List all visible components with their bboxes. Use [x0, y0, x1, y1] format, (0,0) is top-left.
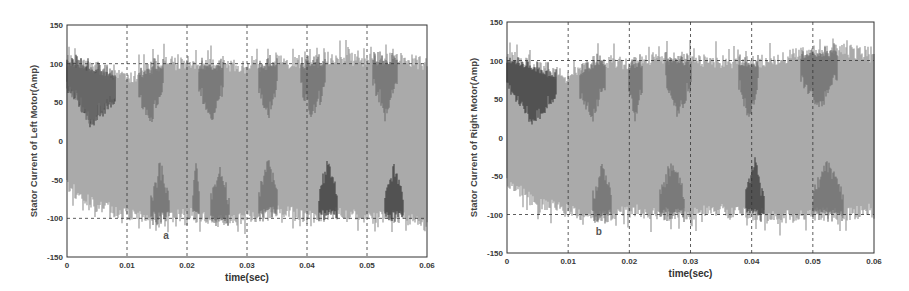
- x-tick-label: 0.04: [299, 261, 315, 270]
- y-tick-label: -50: [491, 172, 503, 181]
- chart-panel-right: 150100500-50-100-15000.010.020.030.040.0…: [450, 0, 909, 291]
- y-tick-label: 50: [54, 98, 63, 107]
- y-tick-label: 100: [490, 57, 504, 66]
- x-tick-label: 0.05: [359, 261, 375, 270]
- x-tick-label: 0: [505, 257, 510, 266]
- y-tick-label: -50: [51, 176, 63, 185]
- y-tick-label: -100: [47, 214, 64, 223]
- y-tick-labels: 150100500-50-100-150: [487, 18, 504, 258]
- panel-annotation: a: [163, 230, 169, 241]
- x-tick-label: 0.06: [419, 261, 435, 270]
- y-tick-label: 50: [494, 95, 503, 104]
- x-tick-label: 0.05: [805, 257, 821, 266]
- y-tick-label: 0: [59, 137, 64, 146]
- x-tick-label: 0.01: [560, 257, 576, 266]
- x-tick-label: 0: [65, 261, 70, 270]
- y-tick-label: -150: [47, 253, 64, 262]
- y-tick-label: -100: [487, 211, 504, 220]
- y-tick-label: 150: [50, 21, 64, 30]
- x-tick-label: 0.03: [239, 261, 255, 270]
- x-tick-label: 0.01: [119, 261, 135, 270]
- panel-annotation: b: [596, 226, 602, 237]
- x-tick-label: 0.02: [179, 261, 195, 270]
- y-tick-label: -150: [487, 249, 504, 258]
- x-tick-label: 0.02: [622, 257, 638, 266]
- y-axis-label: Stator Current of Right Motor(Amp): [468, 58, 479, 217]
- y-tick-label: 0: [499, 134, 504, 143]
- y-tick-label: 150: [490, 18, 504, 27]
- y-axis-label: Stator Current of Left Motor(Amp): [28, 65, 39, 218]
- chart-panel-left: 150100500-50-100-15000.010.020.030.040.0…: [0, 0, 450, 291]
- x-tick-label: 0.06: [866, 257, 882, 266]
- x-axis-label: time(sec): [225, 272, 269, 283]
- y-tick-labels: 150100500-50-100-150: [47, 21, 64, 262]
- chart-right-svg: 150100500-50-100-15000.010.020.030.040.0…: [450, 0, 909, 291]
- chart-left-svg: 150100500-50-100-15000.010.020.030.040.0…: [0, 0, 450, 291]
- x-tick-labels: 00.010.020.030.040.050.06: [505, 257, 883, 266]
- x-tick-labels: 00.010.020.030.040.050.06: [65, 261, 436, 270]
- x-tick-label: 0.03: [683, 257, 699, 266]
- x-tick-label: 0.04: [744, 257, 760, 266]
- x-axis-label: time(sec): [669, 268, 713, 279]
- y-tick-label: 100: [50, 60, 64, 69]
